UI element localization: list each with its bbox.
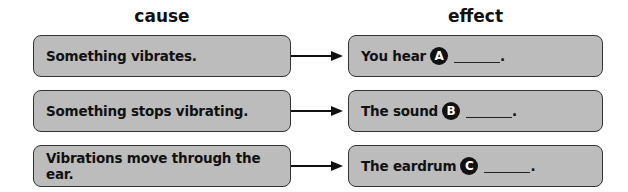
cause-box-3: Vibrations move through the ear. (33, 145, 291, 187)
arrow-icon (291, 106, 343, 116)
answer-blank-b[interactable] (466, 105, 512, 118)
badge-a: A (430, 47, 448, 65)
period: . (530, 158, 535, 174)
answer-blank-c[interactable] (484, 160, 530, 173)
cause-text: Something vibrates. (46, 48, 197, 64)
cause-header: cause (33, 6, 291, 26)
period: . (512, 103, 517, 119)
effect-text: The eardrum (361, 158, 456, 174)
arrow-icon (291, 51, 343, 61)
cause-text: Something stops vibrating. (46, 103, 248, 119)
effect-box-1: You hear A . (348, 35, 603, 77)
cause-text: Vibrations move through the ear. (46, 150, 290, 182)
answer-blank-a[interactable] (454, 50, 500, 63)
badge-b: B (442, 102, 460, 120)
effect-text: You hear (361, 48, 426, 64)
cause-box-2: Something stops vibrating. (33, 90, 291, 132)
effect-text: The sound (361, 103, 438, 119)
badge-c: C (460, 157, 478, 175)
effect-box-3: The eardrum C . (348, 145, 603, 187)
cause-box-1: Something vibrates. (33, 35, 291, 77)
arrow-icon (291, 161, 343, 171)
effect-box-2: The sound B . (348, 90, 603, 132)
effect-header: effect (348, 6, 603, 26)
period: . (500, 48, 505, 64)
